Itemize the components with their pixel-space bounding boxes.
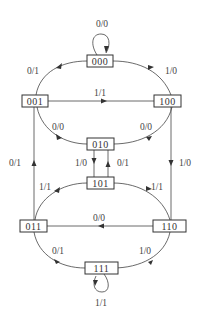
edge-001-010: 0/0 [37,107,87,144]
state-011: 011 [20,220,47,232]
state-label-011: 011 [25,221,41,232]
arrowhead-icon [56,63,62,69]
edge-110-011: 0/0 [46,213,153,229]
edge-label-101-010: 0/1 [117,158,129,168]
edge-label-110-111: 1/0 [139,246,151,256]
state-001: 001 [22,95,48,107]
edge-label-010-101: 1/0 [75,158,87,168]
arrowhead-icon [148,65,154,70]
arrowhead-icon [169,160,174,166]
state-label-111: 111 [94,263,110,274]
edge-label-001-100: 1/1 [94,88,106,98]
arrowhead-icon [98,224,104,229]
edge-111-111: 1/1 [93,274,108,308]
state-label-110: 110 [161,221,177,232]
edge-label-011-001: 0/1 [9,158,21,168]
edge-011-101: 1/1 [35,182,87,220]
arrowhead-icon [101,99,107,104]
state-000: 000 [87,55,113,67]
edge-label-100-110: 1/0 [179,158,191,168]
edge-label-001-010: 0/0 [52,122,64,132]
state-label-000: 000 [92,56,109,67]
edge-101-110: 1/1 [113,182,170,220]
edge-label-001-000: 0/1 [27,66,39,76]
edge-001-000: 0/1 [27,61,87,95]
state-110: 110 [153,220,186,232]
edge-label-101-110: 1/1 [151,182,163,192]
state-111: 111 [85,262,118,274]
arrowhead-icon [54,259,60,264]
state-label-001: 001 [27,96,44,107]
edge-101-010: 0/1 [106,150,130,177]
state-diagram: 0/0 0/1 1/0 1/1 0/0 0/0 1/0 0/1 [0,0,200,322]
edge-100-110: 1/0 [169,107,192,220]
edge-100-010: 0/0 [113,107,172,144]
edge-label-111-111: 1/1 [95,298,107,308]
arrowhead-icon [32,160,37,166]
edge-label-100-010: 0/0 [140,122,152,132]
state-label-100: 100 [159,96,176,107]
edge-label-011-101: 1/1 [39,182,51,192]
arrowhead-icon [148,260,153,265]
arrowhead-icon [92,158,97,164]
edge-111-011: 0/1 [34,232,85,268]
edge-110-111: 1/0 [113,232,170,268]
edge-010-101: 1/0 [75,150,97,177]
edge-011-001: 0/1 [9,107,37,220]
edge-label-111-011: 0/1 [52,246,64,256]
edge-label-000-100: 1/0 [165,66,177,76]
state-100: 100 [154,95,181,107]
edge-label-000-000: 0/0 [96,19,108,29]
edge-000-100: 1/0 [113,61,177,95]
arrowhead-icon [106,161,111,167]
state-010: 010 [87,138,114,150]
edge-000-000: 0/0 [93,19,109,55]
state-label-101: 101 [92,178,109,189]
edge-label-110-011: 0/0 [93,213,105,223]
arrowhead-icon [56,134,62,140]
edge-001-100: 1/1 [48,88,154,104]
state-101: 101 [87,177,114,189]
state-label-010: 010 [92,139,109,150]
